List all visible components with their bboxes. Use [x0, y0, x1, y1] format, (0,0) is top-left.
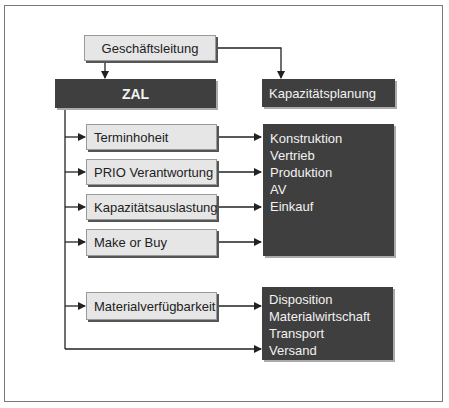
node-label: PRIO Verantwortung: [94, 165, 213, 180]
node-label: Materialverfügbarkeit: [94, 299, 215, 314]
list-item: Konstruktion: [270, 130, 342, 147]
group-logistics: Disposition Materialwirtschaft Transport…: [262, 287, 393, 360]
node-materialverfuegbarkeit: Materialverfügbarkeit: [86, 292, 217, 320]
node-geschaeftsleitung: Geschäftsleitung: [84, 35, 216, 61]
list-item: AV: [270, 181, 286, 198]
list-item: Vertrieb: [270, 147, 315, 164]
node-label: Kapazitätsauslastung: [94, 200, 218, 215]
list-item: Produktion: [270, 164, 332, 181]
node-zal: ZAL: [55, 79, 216, 108]
node-label: Terminhoheit: [94, 130, 168, 145]
node-make-or-buy: Make or Buy: [86, 229, 217, 256]
node-label: Make or Buy: [94, 235, 167, 250]
node-terminhoheit: Terminhoheit: [86, 124, 217, 150]
group-departments: Konstruktion Vertrieb Produktion AV Eink…: [263, 124, 394, 256]
node-kapazitaetsauslastung: Kapazitätsauslastung: [86, 194, 217, 220]
node-kapazitaetsplanung: Kapazitätsplanung: [262, 79, 395, 107]
list-item: Einkauf: [270, 198, 313, 215]
node-label: Geschäftsleitung: [102, 41, 199, 56]
node-label: Kapazitätsplanung: [269, 86, 376, 101]
list-item: Versand: [269, 342, 317, 359]
list-item: Disposition: [269, 291, 333, 308]
list-item: Materialwirtschaft: [269, 308, 370, 325]
node-prio-verantwortung: PRIO Verantwortung: [86, 159, 217, 185]
node-label: ZAL: [122, 86, 149, 102]
list-item: Transport: [269, 325, 324, 342]
